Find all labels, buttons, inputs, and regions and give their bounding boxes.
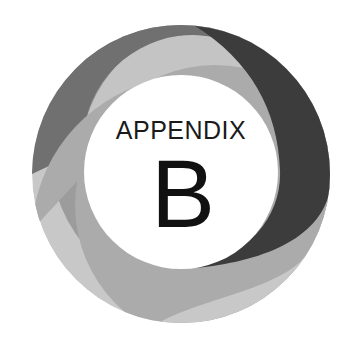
appendix-letter: B [0,146,358,242]
